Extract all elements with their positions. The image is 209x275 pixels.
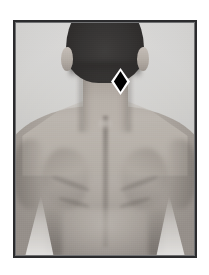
deltoid-right — [166, 139, 195, 209]
deltoid-left — [15, 139, 44, 209]
lower-back — [55, 209, 156, 256]
hairline — [69, 62, 141, 78]
photograph — [15, 22, 195, 256]
ear-left — [61, 47, 73, 72]
ear-right — [137, 47, 149, 72]
figure-alt-text: Posterior view of a man's upper back, ne… — [0, 0, 1, 1]
c7-vertebra-prominence — [97, 118, 113, 130]
figure-root: Posterior view of a man's upper back, ne… — [0, 0, 209, 275]
diamond-marker-icon — [111, 68, 130, 95]
photo-frame — [13, 20, 197, 258]
